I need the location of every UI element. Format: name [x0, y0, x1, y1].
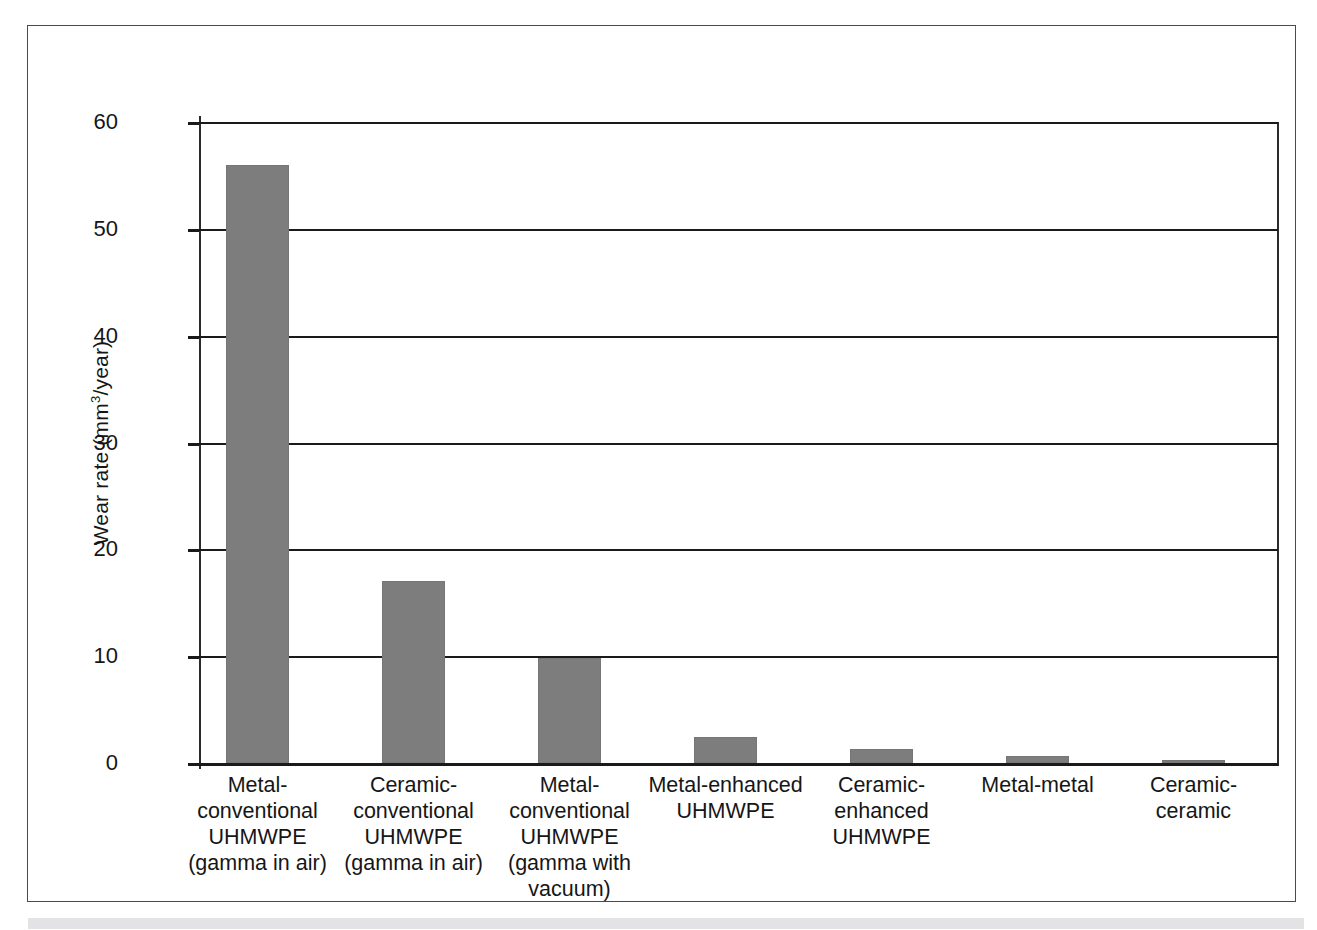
bottom-caption-strip [28, 918, 1304, 929]
y-axis-tick-label: 0 [38, 752, 118, 774]
figure-frame: Wear rate (mm3/year) 0102030405060 Metal… [27, 25, 1296, 902]
y-axis-tick [188, 229, 199, 232]
x-axis-category-labels: Metal- conventional UHMWPE (gamma in air… [199, 772, 1278, 922]
bar [1162, 760, 1225, 763]
y-gridline [199, 656, 1278, 658]
y-axis-tick [188, 336, 199, 339]
bar [226, 165, 289, 763]
bar [538, 658, 601, 763]
bar [382, 581, 445, 763]
y-axis-title-superscript: 3 [88, 395, 103, 402]
y-axis-tick-label: 50 [38, 218, 118, 240]
y-axis-tick-label: 10 [38, 645, 118, 667]
y-gridline [199, 443, 1278, 445]
bar [694, 737, 757, 763]
y-axis-tick-label: 30 [38, 432, 118, 454]
y-gridline [199, 229, 1278, 231]
y-axis-tick-label: 60 [38, 111, 118, 133]
y-axis-tick [188, 763, 199, 766]
x-axis-category-label: Ceramic- ceramic [1099, 772, 1289, 824]
plot-area: 0102030405060 [199, 122, 1278, 763]
y-axis-tick [188, 549, 199, 552]
bar [1006, 756, 1069, 763]
y-axis-tick-label: 40 [38, 325, 118, 347]
y-gridline [199, 549, 1278, 551]
y-axis-tick [188, 443, 199, 446]
y-axis-tick [188, 656, 199, 659]
y-gridline [199, 336, 1278, 338]
bar [850, 749, 913, 763]
y-axis-tick-label: 20 [38, 538, 118, 560]
y-gridline [199, 763, 1278, 766]
y-gridline [199, 122, 1278, 124]
y-axis-tick [188, 122, 199, 125]
